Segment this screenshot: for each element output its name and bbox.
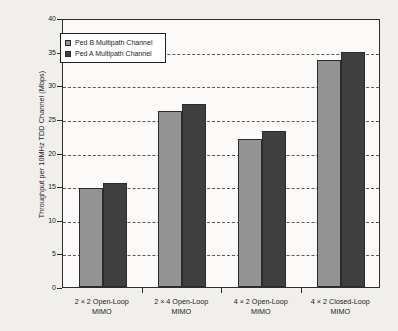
y-tick-label: 10: [30, 217, 56, 224]
legend-swatch-icon: [65, 40, 71, 46]
y-tick-label: 15: [30, 183, 56, 190]
bar: [103, 183, 127, 287]
y-tick-label: 25: [30, 116, 56, 123]
bar: [158, 111, 182, 287]
bar: [262, 131, 286, 287]
y-tick-label: 20: [30, 150, 56, 157]
legend-item: Ped A Multipath Channel: [65, 48, 161, 59]
y-tick-label: 35: [30, 49, 56, 56]
legend-label: Ped B Multipath Channel: [75, 39, 152, 46]
bar: [182, 104, 206, 287]
x-tick-mark: [142, 288, 143, 293]
x-tick-mark: [301, 288, 302, 293]
y-tick-label: 0: [30, 284, 56, 291]
x-tick-label-line: MIMO: [292, 307, 388, 317]
bar: [317, 60, 341, 287]
bar: [341, 52, 365, 287]
x-tick-mark: [221, 288, 222, 293]
bar: [238, 139, 262, 287]
y-tick-label: 30: [30, 82, 56, 89]
y-tick-mark: [57, 288, 62, 289]
legend-label: Ped A Multipath Channel: [75, 50, 152, 57]
chart-legend: Ped B Multipath ChannelPed A Multipath C…: [60, 33, 166, 63]
bar-chart: Throughput per 10MHz TDD Channel (Mbps) …: [0, 0, 398, 331]
bar: [79, 188, 103, 287]
legend-item: Ped B Multipath Channel: [65, 37, 161, 48]
x-tick-label: 4 × 2 Closed-LoopMIMO: [292, 297, 388, 316]
y-tick-label: 5: [30, 250, 56, 257]
y-tick-label: 40: [30, 15, 56, 22]
x-tick-label-line: 4 × 2 Closed-Loop: [292, 297, 388, 307]
legend-swatch-icon: [65, 51, 71, 57]
